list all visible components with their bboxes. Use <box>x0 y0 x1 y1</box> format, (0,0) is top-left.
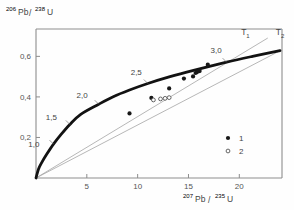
legend-marker-1 <box>226 136 230 140</box>
legend-label-1: 1 <box>239 134 244 143</box>
y-axis-label-u: U <box>47 7 53 17</box>
data-point-series-2 <box>163 96 167 100</box>
concordia-age-label: 1,5 <box>46 113 58 122</box>
y-axis-label: 206 Pb / 238 U <box>6 6 53 18</box>
y-axis-label-sup-206: 206 <box>6 6 17 12</box>
x-tick-label: 5 <box>85 182 90 191</box>
x-axis-label-slash: / <box>208 195 211 205</box>
concordia-age-label: 2,5 <box>131 68 143 77</box>
y-tick-label: 0,6 <box>20 52 32 61</box>
x-tick-label: 20 <box>235 182 244 191</box>
data-point-series-1 <box>182 76 186 80</box>
concordia-age-tick <box>95 100 99 104</box>
data-point-series-2 <box>167 96 171 100</box>
legend-marker-2 <box>226 149 230 153</box>
x-axis-ticks: 5101520 <box>85 174 245 191</box>
plot-canvas: 206 Pb / 238 U 207 Pb / 235 U 5101520 0,… <box>0 0 294 210</box>
x-axis-label-sup-235: 235 <box>215 193 226 199</box>
x-tick-label: 10 <box>133 182 142 191</box>
data-point-series-1 <box>198 69 202 73</box>
x-axis-label-u: U <box>227 194 233 204</box>
data-point-series-1 <box>191 74 195 78</box>
data-point-series-2 <box>159 97 163 101</box>
x-axis-label: 207 Pb / 235 U <box>183 193 233 205</box>
data-point-series-1 <box>167 86 171 90</box>
y-axis-label-sup-238: 238 <box>35 6 46 12</box>
intercept-label-T2: T2 <box>276 27 285 39</box>
x-tick-label: 15 <box>184 182 193 191</box>
intercept-label-subscript: 2 <box>281 33 285 39</box>
data-point-series-1 <box>206 63 210 67</box>
concordia-diagram-figure: 206 Pb / 238 U 207 Pb / 235 U 5101520 0,… <box>0 0 294 210</box>
data-point-series-2 <box>152 98 156 102</box>
concordia-age-tick <box>49 140 53 144</box>
data-point-series-1 <box>127 111 131 115</box>
discordia-lower <box>36 50 282 178</box>
concordia-age-tick <box>66 120 70 124</box>
concordia-age-label: 2,0 <box>77 91 89 100</box>
y-tick-label: 0,4 <box>20 93 32 102</box>
concordia-age-label: 1,0 <box>28 140 40 149</box>
concordia-age-ticks: 1,01,52,02,53,0 <box>28 46 226 149</box>
y-axis-label-slash: / <box>29 8 32 18</box>
legend-label-2: 2 <box>239 147 244 156</box>
x-axis-label-sup-207: 207 <box>183 193 194 199</box>
y-axis-label-pb: Pb <box>18 7 29 17</box>
discordia-upper <box>36 38 268 178</box>
x-axis-label-pb: Pb <box>195 194 206 204</box>
concordia-age-label: 3,0 <box>210 46 222 55</box>
intercept-label-subscript: 1 <box>246 33 250 39</box>
legend: 12 <box>226 134 244 156</box>
y-axis-ticks: 0,20,40,6 <box>20 52 40 142</box>
